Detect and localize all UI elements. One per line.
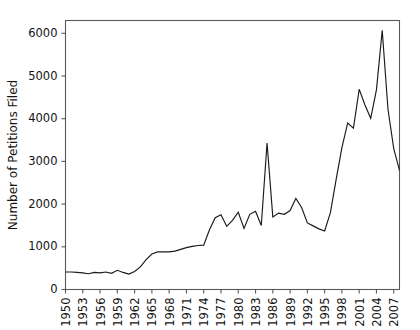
x-tick-label: 1956 <box>94 298 108 327</box>
y-tick-label: 2000 <box>28 197 57 211</box>
x-tick-label: 1980 <box>232 298 246 327</box>
x-tick-label: 1962 <box>128 298 142 327</box>
x-tick-label: 1983 <box>249 298 263 327</box>
y-axis: 0100020003000400050006000 <box>28 26 65 296</box>
x-tick-label: 2004 <box>370 298 384 327</box>
x-tick-label: 1953 <box>76 298 90 327</box>
y-tick-label: 4000 <box>28 111 57 125</box>
x-tick-label: 1950 <box>59 298 73 327</box>
x-tick-label: 1998 <box>335 298 349 327</box>
x-tick-label: 1989 <box>284 298 298 327</box>
x-tick-label: 1971 <box>180 298 194 327</box>
x-tick-label: 1977 <box>214 298 228 327</box>
y-tick-label: 5000 <box>28 69 57 83</box>
y-tick-label: 1000 <box>28 239 57 253</box>
x-tick-label: 1974 <box>197 298 211 327</box>
x-tick-label: 1965 <box>145 298 159 327</box>
petitions-line <box>66 30 400 274</box>
x-tick-label: 1992 <box>301 298 315 327</box>
x-tick-label: 2001 <box>353 298 367 327</box>
chart-figure: 0100020003000400050006000 19501953195619… <box>0 0 420 330</box>
x-axis: 1950195319561959196219651968197119741977… <box>59 290 401 327</box>
x-tick-label: 1995 <box>318 298 332 327</box>
x-tick-label: 1986 <box>266 298 280 327</box>
x-tick-label: 2007 <box>387 298 401 327</box>
y-tick-label: 0 <box>50 282 57 296</box>
x-tick-label: 1959 <box>111 298 125 327</box>
y-tick-label: 6000 <box>28 26 57 40</box>
data-series <box>66 30 400 274</box>
y-axis-title: Number of Petitions Filed <box>6 80 20 230</box>
plot-frame <box>66 21 400 290</box>
x-tick-label: 1968 <box>163 298 177 327</box>
line-chart: 0100020003000400050006000 19501953195619… <box>0 0 420 330</box>
y-tick-label: 3000 <box>28 154 57 168</box>
